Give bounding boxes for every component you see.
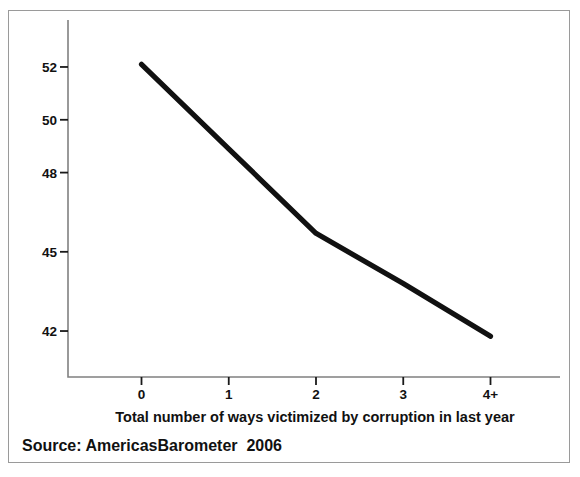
chart-figure: 5250484542 01234+ System Support Total n…	[0, 0, 580, 477]
series-line-system-support	[142, 64, 491, 336]
y-axis-ticks: 5250484542	[42, 60, 68, 339]
y-tick-label: 48	[42, 166, 58, 181]
x-axis-ticks: 01234+	[138, 377, 499, 400]
y-tick-label: 42	[42, 324, 57, 339]
x-axis-title: Total number of ways victimized by corru…	[70, 409, 560, 425]
axis-lines	[68, 20, 560, 377]
y-tick-label: 52	[42, 60, 57, 75]
plot-area: 5250484542 01234+	[0, 0, 580, 400]
x-tick-label: 4+	[483, 387, 499, 400]
line-chart-svg: 5250484542 01234+	[0, 0, 580, 400]
x-tick-label: 0	[138, 387, 146, 400]
x-tick-label: 1	[225, 387, 233, 400]
data-series-group	[142, 64, 491, 336]
y-tick-label: 50	[42, 113, 57, 128]
x-tick-label: 3	[399, 387, 407, 400]
source-note: Source: AmericasBarometer 2006	[22, 437, 282, 455]
y-tick-label: 45	[42, 245, 58, 260]
x-tick-label: 2	[312, 387, 320, 400]
